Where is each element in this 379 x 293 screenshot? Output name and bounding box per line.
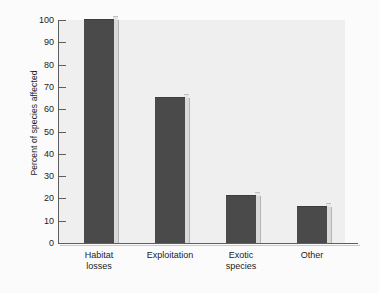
y-tick-label: 70 bbox=[44, 82, 54, 92]
y-axis-title: Percent of species affected bbox=[29, 13, 39, 233]
y-tick-mark bbox=[59, 65, 66, 66]
x-axis-category-label: Exoticspecies bbox=[204, 250, 278, 272]
bar-face bbox=[155, 97, 185, 243]
y-tick-label: 40 bbox=[44, 149, 54, 159]
plot-area: 1009080706050403020100 bbox=[58, 20, 358, 244]
category-label-line1: Exotic bbox=[204, 250, 278, 261]
y-tick-mark bbox=[59, 198, 66, 199]
y-tick-mark bbox=[59, 132, 66, 133]
y-tick-label: 10 bbox=[44, 216, 54, 226]
bar bbox=[226, 196, 256, 243]
bar-face bbox=[84, 19, 114, 243]
category-label-line1: Other bbox=[275, 250, 349, 261]
category-label-line1: Exploitation bbox=[133, 250, 207, 261]
category-label-line1: Habitat bbox=[62, 250, 136, 261]
bar-chart: Percent of species affected 100908070605… bbox=[0, 0, 379, 293]
bar bbox=[297, 207, 327, 243]
y-tick-mark bbox=[59, 109, 66, 110]
y-tick-label: 30 bbox=[44, 171, 54, 181]
x-axis-shadow bbox=[60, 245, 360, 246]
category-label-line2: species bbox=[204, 261, 278, 272]
y-tick-mark bbox=[59, 42, 66, 43]
x-axis-category-label: Exploitation bbox=[133, 250, 207, 261]
bar bbox=[155, 98, 185, 243]
category-label-line2: losses bbox=[62, 261, 136, 272]
y-tick-mark bbox=[59, 221, 66, 222]
y-tick-mark bbox=[59, 154, 66, 155]
y-tick-mark bbox=[59, 176, 66, 177]
y-tick-label: 100 bbox=[39, 15, 54, 25]
x-axis-category-label: Habitatlosses bbox=[62, 250, 136, 272]
y-tick-label: 80 bbox=[44, 60, 54, 70]
y-tick-label: 50 bbox=[44, 127, 54, 137]
y-tick-label: 90 bbox=[44, 37, 54, 47]
x-axis-category-label: Other bbox=[275, 250, 349, 261]
y-tick-mark bbox=[59, 20, 66, 21]
y-tick-mark bbox=[59, 87, 66, 88]
y-tick-label: 20 bbox=[44, 193, 54, 203]
y-tick-label: 60 bbox=[44, 104, 54, 114]
y-tick-mark bbox=[59, 243, 66, 244]
bar-face bbox=[226, 195, 256, 243]
bar-face bbox=[297, 206, 327, 243]
x-axis-line bbox=[58, 243, 358, 244]
y-tick-label: 0 bbox=[49, 238, 54, 248]
bar bbox=[84, 20, 114, 243]
